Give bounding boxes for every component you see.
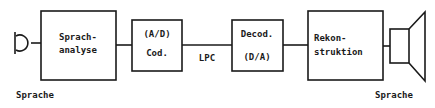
- block-ad-coder-line2: Cod.: [146, 48, 168, 58]
- block-rekonstruktion: [308, 11, 383, 80]
- block-sprachanalyse-line2: analyse: [59, 45, 98, 55]
- block-decoder-da: [232, 20, 283, 71]
- input-label: Sprache: [16, 90, 55, 100]
- block-decoder-line2: (D/A): [243, 52, 270, 62]
- speech-coding-diagram: Sprach- analyse (A/D) Cod. Decod. (D/A) …: [0, 0, 435, 108]
- block-ad-coder: [132, 20, 182, 71]
- block-sprachanalyse-line1: Sprach-: [59, 32, 97, 42]
- speaker-icon: [390, 12, 425, 81]
- output-label: Sprache: [375, 90, 414, 100]
- block-rekonstruktion-line1: Rekon-: [314, 33, 347, 43]
- block-rekonstruktion-line2: struktion: [314, 47, 363, 57]
- block-decoder-line1: Decod.: [241, 29, 274, 39]
- lpc-label: LPC: [199, 53, 215, 63]
- microphone-icon: [15, 32, 41, 54]
- block-ad-coder-line1: (A/D): [143, 29, 170, 39]
